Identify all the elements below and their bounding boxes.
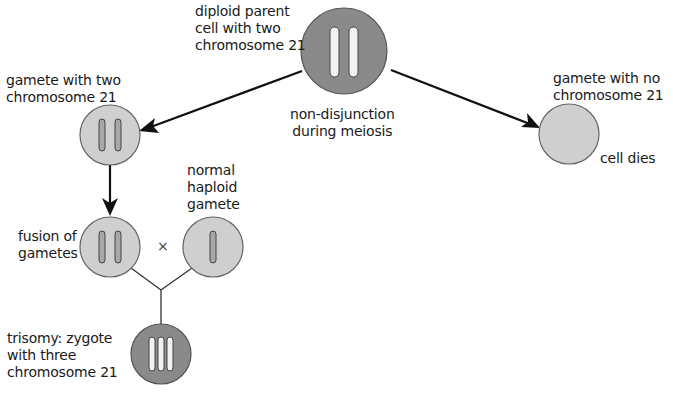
gamete-two-chromosomes: [80, 105, 140, 165]
label-parent: diploid parent cell with two chromosome …: [195, 3, 306, 54]
chromosome: [210, 231, 216, 263]
label-trisomy: trisomy: zygote with three chromosome 21: [7, 330, 118, 381]
arrow-parent-to-gamete-two: [139, 71, 302, 133]
nondisjunction-diagram: diploid parent cell with two chromosome …: [0, 0, 673, 399]
chromosome: [330, 27, 339, 77]
trisomy-zygote: [131, 324, 191, 384]
chromosome: [99, 231, 105, 263]
chromosome: [149, 337, 155, 371]
label-fusion: fusion of gametes: [18, 228, 78, 262]
label-cell-dies: cell dies: [600, 150, 655, 167]
chromosome: [349, 27, 358, 77]
fusion-gamete: [80, 217, 140, 277]
label-gamete-two: gamete with two chromosome 21: [6, 72, 121, 106]
chromosome: [167, 337, 173, 371]
fusion-join-lines: [131, 268, 192, 324]
label-process: non-disjunction during meiosis: [290, 106, 395, 140]
chromosome: [115, 119, 121, 151]
parent-cell: [301, 8, 387, 94]
label-normal-haploid: normal haploid gamete: [187, 162, 240, 213]
chromosome: [158, 337, 164, 371]
arrow-gamete-two-to-fusion: [102, 165, 118, 216]
cross-symbol: ×: [157, 238, 169, 255]
gamete-no-chromosome: [539, 104, 599, 164]
arrow-parent-to-gamete-none: [391, 70, 540, 128]
chromosome: [99, 119, 105, 151]
label-gamete-none: gamete with no chromosome 21: [553, 70, 664, 104]
normal-haploid-gamete: [183, 217, 243, 277]
chromosome: [115, 231, 121, 263]
